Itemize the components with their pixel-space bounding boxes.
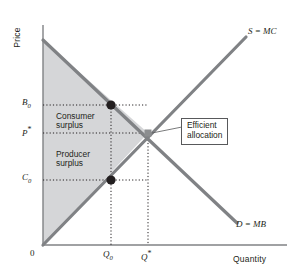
x-tick-label-qstar: Q*	[141, 250, 152, 262]
producer-surplus-label: Producer surplus	[56, 150, 90, 168]
marker-c0-point	[106, 175, 115, 184]
demand-curve-label: D = MB	[236, 220, 266, 229]
callout-line2: allocation	[187, 131, 222, 141]
supply-demand-efficiency-figure: Price Quantity B0 P* C0 0 Q0 Q* Consumer…	[0, 0, 305, 278]
origin-label: 0	[30, 249, 35, 258]
x-tick-q0-sub: 0	[110, 254, 113, 261]
marker-b0-point	[106, 100, 115, 109]
y-tick-label-b0: B0	[22, 98, 31, 110]
supply-curve-label: S = MC	[248, 27, 277, 36]
y-tick-label-pstar: P*	[22, 126, 32, 138]
x-axis-title: Quantity	[233, 255, 266, 264]
x-tick-qstar-sup: *	[148, 249, 152, 258]
producer-surplus-line2: surplus	[56, 159, 90, 168]
y-tick-b0-sub: 0	[28, 102, 31, 109]
y-tick-c0-sub: 0	[28, 177, 31, 184]
equilibrium-marker	[145, 130, 152, 137]
consumer-surplus-line2: surplus	[56, 121, 95, 130]
plot-canvas	[0, 0, 305, 278]
y-tick-pstar-sup: *	[28, 125, 32, 134]
x-tick-label-q0: Q0	[103, 250, 113, 262]
total-surplus-shaded-region	[43, 40, 148, 245]
y-tick-label-c0: C0	[22, 173, 31, 185]
efficient-allocation-callout: Efficient allocation	[181, 118, 228, 145]
y-axis-title: Price	[13, 14, 22, 60]
consumer-surplus-label: Consumer surplus	[56, 112, 95, 130]
